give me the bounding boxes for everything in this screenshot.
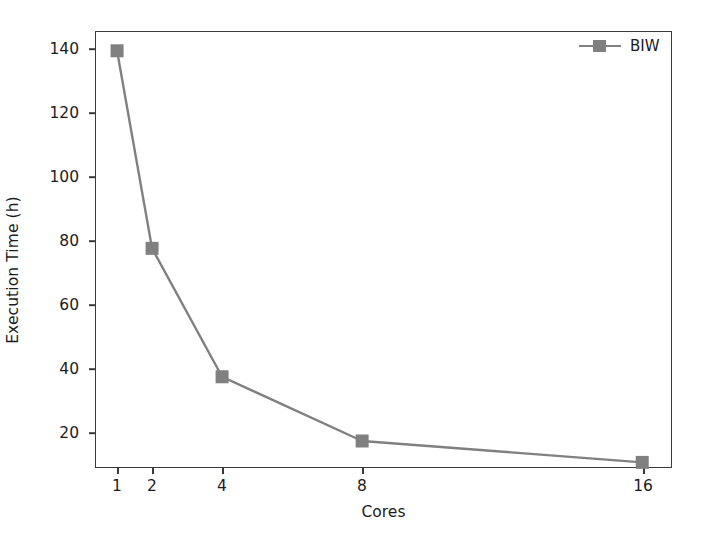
y-tick-label: 120 — [33, 104, 79, 122]
y-tick-mark — [89, 112, 95, 114]
x-tick-mark — [152, 468, 154, 474]
x-tick-mark — [222, 468, 224, 474]
y-tick-label: 20 — [33, 424, 79, 442]
x-tick-label: 16 — [613, 477, 673, 495]
y-tick-label: 40 — [33, 360, 79, 378]
legend-label-biw: BIW — [630, 37, 660, 55]
plot-area — [95, 31, 672, 468]
x-tick-label: 8 — [332, 477, 392, 495]
y-tick-mark — [89, 48, 95, 50]
x-tick-label: 4 — [192, 477, 252, 495]
y-tick-mark — [89, 176, 95, 178]
y-tick-label: 140 — [33, 40, 79, 58]
x-tick-mark — [643, 468, 645, 474]
y-tick-mark — [89, 432, 95, 434]
y-tick-label: 100 — [33, 168, 79, 186]
chart-figure: Execution Time (h) 20 40 60 80 100 120 1… — [0, 0, 701, 540]
legend: BIW — [575, 33, 664, 59]
y-tick-mark — [89, 304, 95, 306]
x-tick-mark — [362, 468, 364, 474]
y-axis-label: Execution Time (h) — [0, 0, 26, 540]
legend-square-marker — [593, 40, 606, 52]
legend-marker-biw — [579, 39, 621, 53]
y-tick-label: 80 — [33, 232, 79, 250]
y-tick-mark — [89, 368, 95, 370]
x-tick-label: 2 — [122, 477, 182, 495]
y-tick-label: 60 — [33, 296, 79, 314]
y-tick-mark — [89, 240, 95, 242]
x-axis-label: Cores — [95, 503, 672, 521]
x-tick-mark — [117, 468, 119, 474]
